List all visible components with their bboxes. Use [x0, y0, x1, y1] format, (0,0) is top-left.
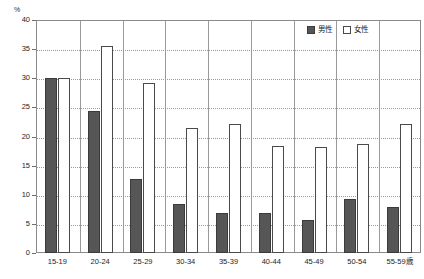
bar-group [164, 20, 207, 253]
legend-swatch-female-icon [343, 26, 351, 34]
y-axis-tick-label: 0 [0, 249, 30, 257]
x-axis-tick-label: 40-44 [250, 258, 293, 266]
y-axis-tick-label: 25 [0, 103, 30, 111]
bar-group [122, 20, 165, 253]
x-axis-tick-label: 15-19 [36, 258, 79, 266]
x-axis-tick-label: 45-49 [293, 258, 336, 266]
legend-label-male: 男性 [318, 26, 332, 34]
legend-item-male: 男性 [307, 26, 332, 34]
chart-legend: 男性 女性 [307, 26, 368, 34]
legend-item-female: 女性 [343, 26, 368, 34]
y-axis-tick-label: 40 [0, 16, 30, 24]
x-axis-tick-label: 20-24 [79, 258, 122, 266]
bar-female [229, 124, 241, 253]
bar-male [216, 213, 228, 253]
bar-male [88, 111, 100, 253]
bar-female [400, 124, 412, 253]
y-axis-tick-label: 35 [0, 45, 30, 53]
bar-female [272, 146, 284, 253]
bar-male [173, 204, 185, 253]
bar-female [315, 147, 327, 253]
y-axis-tick-label: 30 [0, 74, 30, 82]
y-axis-tick-label: 15 [0, 162, 30, 170]
x-axis-tick-label: 50-54 [335, 258, 378, 266]
legend-swatch-male-icon [307, 26, 315, 34]
bar-group [293, 20, 336, 253]
y-axis-tick-label: 5 [0, 220, 30, 228]
bar-group [250, 20, 293, 253]
bar-group [79, 20, 122, 253]
y-axis-unit-label: % [14, 6, 20, 13]
bar-male [45, 78, 57, 253]
bar-female [186, 128, 198, 253]
x-axis-tick-label: 55-59歳 [378, 258, 421, 266]
y-axis-tick-label: 10 [0, 191, 30, 199]
bars-layer [36, 20, 421, 253]
x-axis-tick-label: 30-34 [164, 258, 207, 266]
bar-male [344, 199, 356, 253]
bar-female [58, 78, 70, 253]
bar-male [387, 207, 399, 253]
legend-label-female: 女性 [354, 26, 368, 34]
x-axis-tick-label: 25-29 [122, 258, 165, 266]
bar-chart: % 0510152025303540 15-1920-2425-2930-343… [0, 0, 424, 279]
x-axis-tick-label: 35-39 [207, 258, 250, 266]
y-axis-tick-label: 20 [0, 133, 30, 141]
bar-male [259, 213, 271, 253]
bar-group [378, 20, 421, 253]
bar-group [207, 20, 250, 253]
bar-male [130, 179, 142, 253]
y-axis-tick-mark [32, 253, 36, 254]
bar-female [101, 46, 113, 253]
bar-male [302, 220, 314, 253]
bar-group [36, 20, 79, 253]
bar-group [335, 20, 378, 253]
bar-female [143, 83, 155, 253]
bar-female [357, 144, 369, 254]
